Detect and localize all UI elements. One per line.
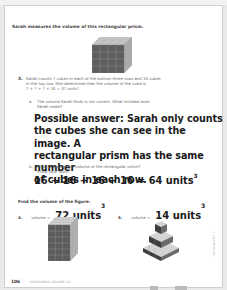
- part-b-answer: 16 + 16 + 16 + 16 = 64 units3: [34, 175, 198, 186]
- part-a-answer-line-1: Possible answer: Sarah only counts: [34, 113, 224, 125]
- rectangular-prism-figure: [92, 37, 132, 73]
- footer-label: MEASURING VOLUME 5A: [30, 280, 70, 284]
- margin-credit: © Great Minds PBC: [212, 231, 215, 256]
- item-4-number: 4.: [18, 215, 22, 220]
- scan-artifact: [175, 286, 187, 290]
- part-a-answer-line-2: the cubes she can see in the image. A: [34, 125, 224, 150]
- scan-artifact: [150, 286, 158, 290]
- part-b-question: What is the correct volume of the rectan…: [37, 164, 187, 174]
- page-number: 106: [11, 279, 20, 284]
- worksheet-page: Sarah measures the volume of this rectan…: [4, 5, 223, 288]
- part-b-question-line-2: Show your work.: [37, 169, 187, 174]
- part-a-question: The volume Sarah finds is not correct. W…: [37, 99, 187, 109]
- part-a-label: a.: [29, 99, 33, 104]
- part-b-answer-exponent: 3: [194, 173, 198, 179]
- item-4-prism-figure: [48, 217, 78, 261]
- problem-3-line-3: 7 + 7 + 7 + 16 = 37 units³.: [26, 86, 196, 91]
- item-5-pyramid-figure: [139, 217, 183, 261]
- item-4-answer-exponent: 3: [101, 202, 105, 209]
- intro-text: Sarah measures the volume of this rectan…: [12, 24, 143, 29]
- problem-3-text: Sarah counts 7 cubes in each of the bott…: [26, 76, 196, 92]
- part-b-answer-text: 16 + 16 + 16 + 16 = 64 units: [34, 175, 194, 186]
- problem-3-number: 3.: [18, 76, 23, 81]
- item-5-answer-exponent: 3: [201, 202, 205, 209]
- part-a-question-line-2: Sarah make?: [37, 104, 187, 109]
- part-b-label: b.: [29, 164, 33, 169]
- item-5-number: 5.: [118, 215, 122, 220]
